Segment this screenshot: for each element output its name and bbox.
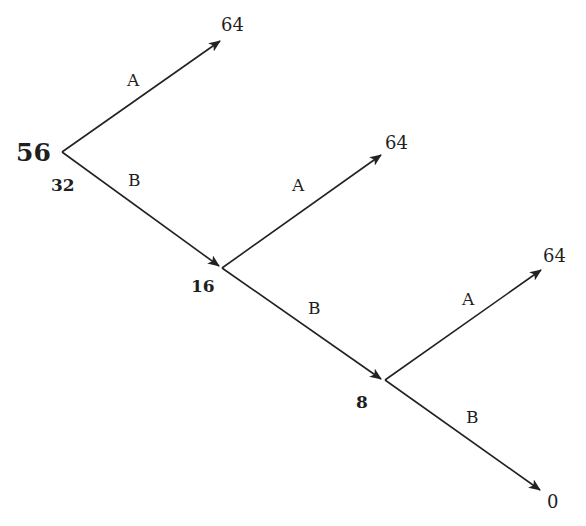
leaf-label-1: 64 xyxy=(221,14,244,35)
node-label-8: 8 xyxy=(356,392,368,412)
edge-n2-a xyxy=(385,270,541,380)
leaf-label-2: 64 xyxy=(385,132,408,153)
root-sublabel: 32 xyxy=(51,175,75,195)
edge-label-n1-b: B xyxy=(308,298,321,318)
root-label: 56 xyxy=(16,138,51,167)
edge-root-b xyxy=(62,152,219,266)
edge-label-root-b: B xyxy=(128,170,141,190)
edge-n1-a xyxy=(222,155,381,268)
arrow-icon xyxy=(385,270,541,380)
arrow-icon xyxy=(222,268,381,379)
arrow-icon xyxy=(62,152,219,266)
leaf-label-4: 0 xyxy=(547,491,558,512)
arrow-icon xyxy=(62,41,220,152)
edge-n1-b xyxy=(222,268,381,379)
edge-label-root-a: A xyxy=(126,70,140,90)
edge-label-n2-b: B xyxy=(466,407,479,427)
decision-tree-diagram: 56 32 16 8 A B A B A B 64 64 64 0 xyxy=(0,0,586,526)
node-label-16: 16 xyxy=(191,276,215,296)
arrow-icon xyxy=(385,380,540,490)
leaf-label-3: 64 xyxy=(543,245,566,266)
edge-label-n1-a: A xyxy=(291,175,305,195)
edge-n2-b xyxy=(385,380,540,490)
arrow-icon xyxy=(222,155,381,268)
edge-root-a xyxy=(62,41,220,152)
edge-label-n2-a: A xyxy=(461,289,475,309)
